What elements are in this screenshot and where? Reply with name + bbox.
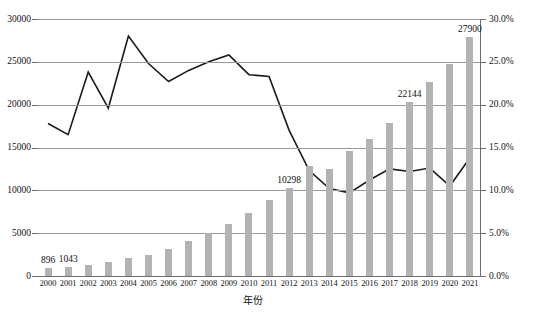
bar-2017 (386, 123, 393, 276)
gridline (38, 276, 480, 277)
y-axis-left-tick-label: 0 (26, 272, 31, 282)
bar-2018 (406, 102, 413, 276)
y-axis-left-tick-label: 30000 (7, 15, 31, 25)
bar-2000 (45, 268, 52, 276)
y-axis-right-tick-label: 10.0% (489, 186, 514, 196)
y-axis-right-tick-label: 5.0% (489, 229, 509, 239)
bar-2004 (125, 258, 132, 276)
gridline (38, 105, 480, 106)
y-axis-right-tick-label: 0.0% (489, 272, 509, 282)
y-axis-left-tick-mark (32, 276, 38, 277)
bar-2008 (205, 233, 212, 276)
bar-2007 (185, 241, 192, 276)
y-axis-right-tick-label: 20.0% (489, 100, 514, 110)
y-axis-left-tick-label: 10000 (7, 186, 31, 196)
bar-2011 (266, 200, 273, 276)
combo-chart: 00.0%50005.0%1000010.0%1500015.0%2000020… (0, 0, 550, 320)
bar-data-label-2012: 10298 (269, 176, 309, 186)
y-axis-left-tick-label: 5000 (12, 229, 31, 239)
bar-data-label-2001: 1043 (48, 255, 88, 265)
bar-2019 (426, 82, 433, 276)
bar-data-label-2018: 22144 (390, 90, 430, 100)
gridline (38, 148, 480, 149)
gridline (38, 233, 480, 234)
y-axis-left-tick-label: 25000 (7, 57, 31, 67)
y-axis-right-tick-label: 15.0% (489, 143, 514, 153)
y-axis-left-tick-mark (32, 148, 38, 149)
bar-2006 (165, 249, 172, 276)
y-axis-right-tick-mark (480, 276, 486, 277)
x-axis-tick-label-2021: 2021 (458, 280, 482, 288)
x-axis-title: 年份 (243, 296, 263, 306)
y-axis-left-tick-mark (32, 105, 38, 106)
bar-2001 (65, 267, 72, 276)
gridline (38, 190, 480, 191)
bar-2005 (145, 255, 152, 276)
bar-2016 (366, 139, 373, 276)
bar-2003 (105, 262, 112, 276)
plot-area (38, 19, 480, 276)
gridline (38, 19, 480, 20)
y-axis-right-tick-label: 30.0% (489, 15, 514, 25)
gridline (38, 62, 480, 63)
bar-2020 (446, 64, 453, 276)
y-axis-left-tick-label: 15000 (7, 143, 31, 153)
bar-2015 (346, 151, 353, 276)
y-axis-left-tick-mark (32, 233, 38, 234)
bar-2009 (225, 224, 232, 276)
y-axis-left-tick-mark (32, 19, 38, 20)
y-axis-left-tick-mark (32, 190, 38, 191)
bar-2002 (85, 265, 92, 276)
y-axis-left-tick-mark (32, 62, 38, 63)
bar-2014 (326, 169, 333, 276)
y-axis-right-spine (480, 19, 481, 276)
bar-2010 (245, 213, 252, 276)
bar-2012 (286, 188, 293, 276)
bar-2021 (466, 37, 473, 276)
y-axis-right-tick-label: 25.0% (489, 57, 514, 67)
bar-data-label-2021: 27900 (450, 25, 490, 35)
y-axis-left-tick-label: 20000 (7, 100, 31, 110)
